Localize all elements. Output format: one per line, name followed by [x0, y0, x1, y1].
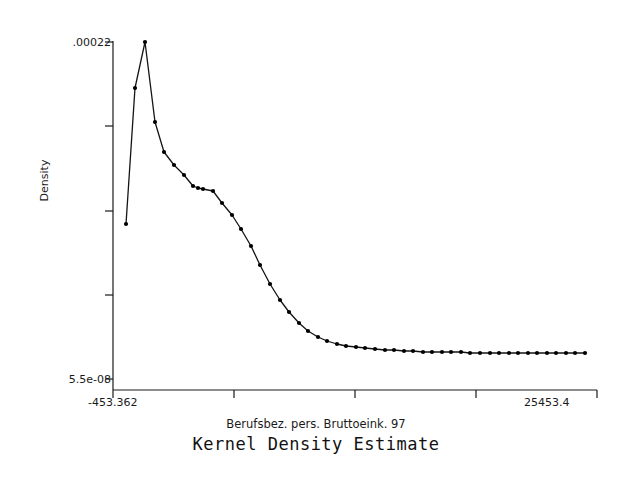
data-point [488, 351, 492, 355]
data-point [211, 189, 215, 193]
data-point [196, 186, 200, 190]
chart-figure: .00022 5.5e-08 -453.362 25453.4 Density … [0, 0, 632, 485]
y-axis-bottom-label: 5.5e-08 [69, 373, 111, 386]
data-point [583, 351, 587, 355]
data-point [278, 298, 282, 302]
data-point [564, 351, 568, 355]
data-point [402, 349, 406, 353]
data-point [249, 244, 253, 248]
data-point [459, 350, 463, 354]
data-point [191, 184, 195, 188]
data-point [182, 173, 186, 177]
data-point [440, 350, 444, 354]
data-point [421, 350, 425, 354]
x-axis-right-label: 25453.4 [524, 396, 570, 409]
chart-title: Kernel Density Estimate [0, 434, 632, 454]
data-point [287, 310, 291, 314]
data-point [430, 350, 434, 354]
data-point [258, 263, 262, 267]
data-point [497, 351, 501, 355]
x-axis-title: Berufsbez. pers. Bruttoeink. 97 [0, 417, 632, 431]
y-axis [105, 41, 113, 390]
data-point [162, 150, 166, 154]
data-point [201, 187, 205, 191]
y-axis-title: Density [38, 136, 51, 226]
data-point [344, 344, 348, 348]
data-point [535, 351, 539, 355]
data-point [516, 351, 520, 355]
data-point [268, 282, 272, 286]
y-axis-top-label: .00022 [73, 36, 112, 49]
density-curve [126, 42, 585, 353]
data-point [306, 329, 310, 333]
data-point [449, 350, 453, 354]
data-point [172, 163, 176, 167]
kernel-density-plot [0, 0, 632, 485]
density-point-markers [124, 40, 587, 355]
data-point [230, 213, 234, 217]
data-point [297, 321, 301, 325]
data-point [526, 351, 530, 355]
data-point [468, 351, 472, 355]
data-point [545, 351, 549, 355]
data-point [354, 345, 358, 349]
data-point [573, 351, 577, 355]
data-point [383, 348, 387, 352]
data-point [143, 40, 147, 44]
data-point [133, 86, 137, 90]
data-point [316, 335, 320, 339]
data-point [325, 339, 329, 343]
data-point [554, 351, 558, 355]
data-point [373, 347, 377, 351]
data-point [220, 201, 224, 205]
data-point [363, 346, 367, 350]
x-axis-left-label: -453.362 [88, 396, 137, 409]
data-point [239, 227, 243, 231]
data-point [153, 120, 157, 124]
data-point [411, 349, 415, 353]
data-point [478, 351, 482, 355]
data-point [507, 351, 511, 355]
data-point [335, 342, 339, 346]
data-point [124, 222, 128, 226]
data-point [392, 348, 396, 352]
